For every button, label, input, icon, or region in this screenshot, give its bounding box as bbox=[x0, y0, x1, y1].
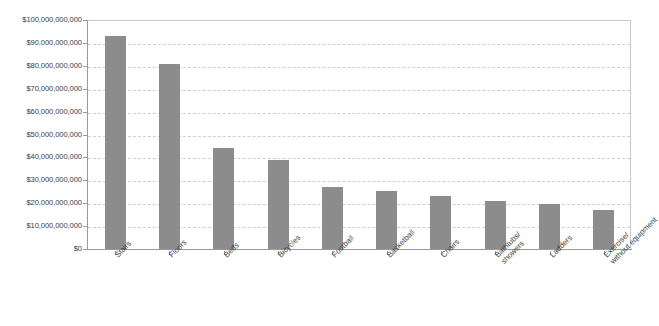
y-axis-tick-label: $20,000,000,000 bbox=[26, 199, 82, 207]
y-axis-tick-label: $10,000,000,000 bbox=[26, 222, 82, 230]
y-axis-tick-mark bbox=[83, 203, 88, 204]
y-axis-tick-mark bbox=[83, 180, 88, 181]
y-axis-tick-label: $40,000,000,000 bbox=[26, 154, 82, 162]
y-axis-tick-mark bbox=[83, 20, 88, 21]
y-axis-tick-mark bbox=[83, 112, 88, 113]
y-axis-tick-mark bbox=[83, 43, 88, 44]
y-axis-tick-mark bbox=[83, 157, 88, 158]
bar bbox=[268, 160, 289, 249]
y-axis-tick-label: $80,000,000,000 bbox=[26, 62, 82, 70]
bar bbox=[322, 187, 343, 249]
bar bbox=[105, 36, 126, 249]
y-axis-tick-mark bbox=[83, 249, 88, 250]
y-axis-tick-label: $70,000,000,000 bbox=[26, 85, 82, 93]
y-axis-tick-mark bbox=[83, 226, 88, 227]
y-axis-tick-mark bbox=[83, 89, 88, 90]
bar bbox=[213, 148, 234, 249]
y-axis: $0$10,000,000,000$20,000,000,000$30,000,… bbox=[0, 0, 86, 326]
y-axis-tick-label: $30,000,000,000 bbox=[26, 177, 82, 185]
bar bbox=[159, 64, 180, 249]
y-axis-tick-label: $50,000,000,000 bbox=[26, 131, 82, 139]
y-axis-tick-mark bbox=[83, 135, 88, 136]
y-axis-tick-label: $100,000,000,000 bbox=[22, 16, 82, 24]
y-axis-tick-label: $90,000,000,000 bbox=[26, 39, 82, 47]
y-axis-tick-label: $0 bbox=[74, 245, 82, 253]
bars-layer bbox=[88, 20, 631, 249]
x-axis-labels: StairsFloorsBedsBicyclesFootballBasketba… bbox=[88, 251, 631, 326]
bar bbox=[430, 196, 451, 249]
y-axis-tick-label: $60,000,000,000 bbox=[26, 108, 82, 116]
y-axis-tick-mark bbox=[83, 66, 88, 67]
bar bbox=[376, 191, 397, 249]
